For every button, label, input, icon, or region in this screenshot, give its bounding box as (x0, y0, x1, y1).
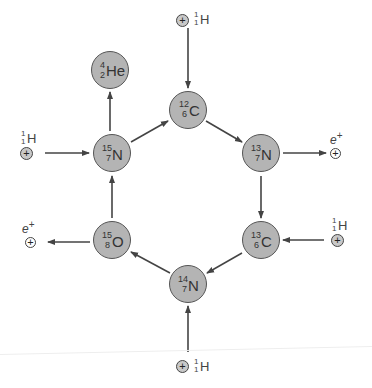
atomic-number: 6 (182, 109, 187, 119)
nucleus-c13: 13 6 C (242, 221, 280, 259)
positron-label-right: e+ (330, 130, 343, 147)
mass-number: 15 (102, 230, 112, 240)
atomic-number: 7 (255, 153, 260, 163)
proton-icon-top: + (176, 14, 189, 27)
element-symbol: N (261, 146, 272, 163)
proton-icon-bottom: + (176, 360, 189, 373)
nucleus-n15: 15 7 N (93, 134, 131, 172)
nucleus-o15: 15 8 O (93, 221, 131, 259)
mass-number: 13 (251, 143, 261, 153)
mass-number: 4 (100, 60, 105, 70)
nucleus-n14: 14 7 N (169, 265, 207, 303)
element-symbol: N (188, 277, 199, 294)
positron-icon-left: + (25, 237, 36, 248)
mass-number: 14 (178, 274, 188, 284)
atomic-number: 6 (254, 240, 259, 250)
nucleus-c12: 12 6 C (169, 91, 207, 129)
arrow-n14-to-o15 (131, 252, 170, 273)
atomic-number: 7 (106, 153, 111, 163)
arrow-layer (0, 0, 372, 388)
element-symbol: N (112, 146, 123, 163)
positron-icon-right: + (330, 148, 341, 159)
mass-number: 15 (102, 143, 112, 153)
arrow-c13-to-n14 (207, 253, 242, 273)
positron-label-left: e+ (22, 219, 35, 236)
arrow-c12-to-n13 (206, 121, 242, 142)
element-symbol: C (261, 233, 272, 250)
nucleus-n13: 13 7 N (242, 134, 280, 172)
element-symbol: O (112, 233, 124, 250)
atomic-number: 2 (100, 70, 105, 80)
mass-number: 13 (251, 230, 261, 240)
nucleus-he4: 4 2 He (91, 51, 129, 89)
arrow-n15-to-c12 (131, 121, 168, 142)
proton-icon-left: + (20, 147, 33, 160)
proton-icon-right: + (331, 234, 344, 247)
atomic-number: 8 (105, 240, 110, 250)
atomic-number: 7 (182, 284, 187, 294)
element-symbol: He (106, 62, 125, 79)
mass-number: 12 (179, 99, 189, 109)
element-symbol: C (189, 102, 200, 119)
